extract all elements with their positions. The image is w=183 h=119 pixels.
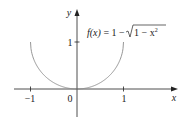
y-axis-label: y xyxy=(66,7,72,18)
function-exponent: 2 xyxy=(155,27,158,33)
svg-text:f(x) = 1 −: f(x) = 1 − xyxy=(87,27,125,39)
x-tick-label-0: 0 xyxy=(68,93,73,104)
function-lhs: f(x) xyxy=(87,27,102,39)
x-axis-arrow-icon xyxy=(171,87,178,92)
function-label: f(x) = 1 − 1 − x2 xyxy=(87,25,166,39)
x-tick-label-1: 1 xyxy=(122,93,127,104)
x-axis-label: x xyxy=(171,92,177,103)
y-tick-label-1: 1 xyxy=(68,37,73,48)
y-axis-arrow-icon xyxy=(75,9,80,16)
function-eq: = 1 − xyxy=(101,27,125,38)
x-tick-label-neg1: −1 xyxy=(25,93,36,104)
function-radicand: 1 − x xyxy=(134,27,155,38)
svg-text:1 − x2: 1 − x2 xyxy=(134,27,158,38)
function-plot: −1 0 1 1 x y f(x) = 1 − 1 − x2 xyxy=(0,0,183,119)
